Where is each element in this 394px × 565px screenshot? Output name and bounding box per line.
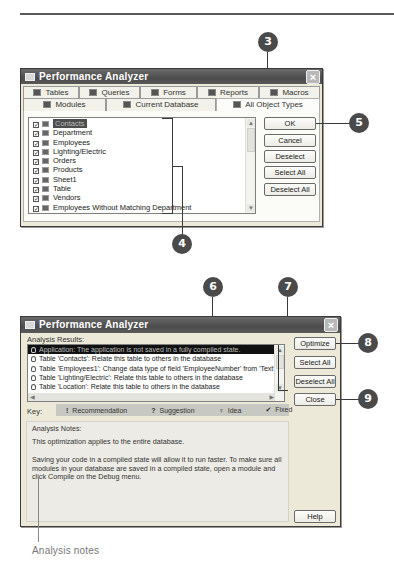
callout-6: 6 [203, 277, 223, 297]
analysis-notes-label: Analysis Notes: [32, 425, 82, 434]
table-icon [42, 167, 49, 173]
list-item[interactable]: ✓Orders [29, 156, 255, 165]
access-app-icon [25, 73, 35, 81]
deselect-all-button[interactable]: Deselect All [264, 183, 316, 196]
access-app-icon [25, 321, 35, 329]
tab-modules[interactable]: Modules [23, 98, 106, 111]
analysis-results-listbox[interactable]: Application: The application is not save… [27, 344, 285, 402]
list-item[interactable]: ✓Employees Without Matching Department [29, 203, 255, 212]
table-icon [42, 195, 49, 201]
analysis-notes-leader [38, 477, 39, 542]
dialog2-titlebar[interactable]: Performance Analyzer × [21, 317, 340, 333]
idea-icon [31, 356, 36, 362]
tab-all-object-types[interactable]: All Object Types [216, 98, 320, 112]
idea-icon [31, 366, 36, 372]
page-top-rule [20, 13, 394, 15]
list-item[interactable]: ✓Table [29, 184, 255, 193]
result-item[interactable]: Table 'Lighting/Electric': Relate this t… [28, 373, 284, 382]
all-objects-icon [233, 101, 241, 108]
close-icon[interactable]: × [324, 318, 338, 332]
key-recommendation: !Recommendation [66, 407, 127, 414]
checkbox[interactable]: ✓ [33, 196, 39, 202]
query-icon [42, 205, 49, 211]
macro-icon [270, 89, 278, 96]
callout-4-leader [182, 166, 183, 236]
analysis-notes-caption: Analysis notes [32, 545, 99, 556]
result-item[interactable]: Table 'Location': Relate this table to o… [28, 382, 284, 391]
callout-4-bracket-bottom [162, 213, 173, 214]
callout-3: 3 [258, 32, 278, 52]
checkbox[interactable]: ✓ [33, 131, 39, 137]
result-item[interactable]: Table 'Employees1': Change data type of … [28, 364, 284, 373]
help-button[interactable]: Help [294, 510, 336, 523]
scroll-up-icon[interactable]: ▲ [247, 119, 255, 127]
checkbox[interactable]: ✓ [33, 168, 39, 174]
analysis-notes-panel: Analysis Notes: This optimization applie… [26, 421, 289, 522]
checkmark-icon: ✔ [265, 406, 271, 413]
list-item[interactable]: ✓Products [29, 165, 255, 174]
list-item[interactable]: ✓Department [29, 128, 255, 137]
key-suggestion: ?Suggestion [151, 407, 194, 414]
deselect-button[interactable]: Deselect [264, 150, 316, 163]
analysis-results-label: Analysis Results: [27, 335, 84, 344]
results-vertical-scrollbar[interactable]: ▲ ▼ [274, 345, 284, 401]
checkbox[interactable]: ✓ [33, 122, 39, 128]
callout-8: 8 [358, 333, 378, 353]
deselect-all-button[interactable]: Deselect All [294, 375, 336, 388]
key-idea: ♀Idea [219, 407, 242, 414]
callout-8-leader [336, 343, 360, 344]
idea-icon [31, 375, 36, 381]
callout-5: 5 [349, 113, 369, 133]
form-icon [151, 89, 159, 96]
checkbox[interactable]: ✓ [33, 159, 39, 165]
tab-current-database[interactable]: Current Database [106, 98, 216, 111]
select-all-button[interactable]: Select All [264, 166, 316, 179]
horizontal-scrollbar[interactable]: ◀ ▶ [28, 393, 276, 401]
analysis-notes-line2: Saving your code in a compiled state wil… [32, 456, 282, 482]
list-item[interactable]: ✓Lighting/Electric [29, 147, 255, 156]
dialog2-title: Performance Analyzer [39, 319, 148, 330]
table-icon [42, 130, 49, 136]
table-icon [42, 177, 49, 183]
optimize-button[interactable]: Optimize [294, 337, 336, 350]
close-button[interactable]: Close [294, 393, 336, 406]
list-item[interactable]: ✓Sheet1 [29, 175, 255, 184]
callout-9-leader [336, 399, 360, 400]
checkbox[interactable]: ✓ [33, 206, 39, 212]
module-icon [43, 101, 51, 108]
select-all-button[interactable]: Select All [294, 356, 336, 369]
dialog1-titlebar[interactable]: Performance Analyzer × [21, 69, 322, 85]
scroll-down-icon[interactable]: ▼ [247, 204, 255, 212]
close-icon[interactable]: × [306, 70, 320, 84]
cancel-button[interactable]: Cancel [264, 134, 316, 147]
list-item[interactable]: ✓Employees [29, 138, 255, 147]
callout-9: 9 [358, 389, 378, 409]
callout-4: 4 [172, 234, 192, 254]
table-icon [42, 158, 49, 164]
callout-4-bracket-mid [172, 166, 182, 167]
key-fixed: ✔Fixed [265, 406, 292, 414]
checkbox[interactable]: ✓ [33, 150, 39, 156]
ok-button[interactable]: OK [264, 117, 316, 130]
report-icon [208, 89, 216, 96]
table-icon [33, 89, 41, 96]
callout-7-bracket-side [278, 345, 279, 391]
list-item[interactable]: ✓Contacts [29, 119, 255, 128]
scroll-left-icon[interactable]: ◀ [30, 393, 35, 401]
key-legend: !Recommendation ?Suggestion ♀Idea ✔Fixed [56, 404, 289, 416]
idea-icon: ♀ [219, 407, 224, 414]
query-icon [89, 89, 97, 96]
checkbox[interactable]: ✓ [33, 187, 39, 193]
object-list-scrollbar[interactable]: ▲ ▼ [245, 118, 255, 213]
checkbox[interactable]: ✓ [33, 141, 39, 147]
scroll-thumb[interactable] [247, 128, 255, 152]
list-item[interactable]: ✓Vendors [29, 193, 255, 202]
checkbox[interactable]: ✓ [33, 178, 39, 184]
object-type-tabs-row2: Modules Current Database All Object Type… [23, 98, 320, 111]
callout-7-bracket-top [278, 390, 288, 391]
result-item[interactable]: Table 'Contacts': Relate this table to o… [28, 354, 284, 363]
callout-7: 7 [278, 277, 298, 297]
suggestion-icon: ? [151, 407, 155, 414]
result-item[interactable]: Application: The application is not save… [28, 345, 284, 354]
object-listbox[interactable]: ✓Contacts ✓Department ✓Employees ✓Lighti… [28, 117, 256, 214]
